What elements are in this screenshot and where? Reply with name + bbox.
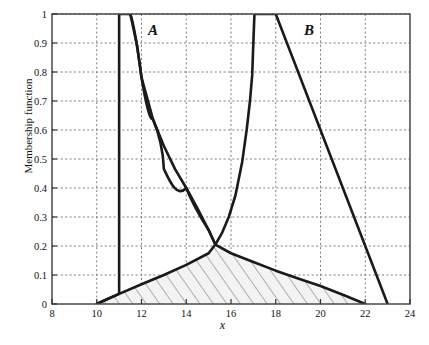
membership-function-chart: 1 0.9 0.8 0.7 0.6 0.5 0.4 0.3 0.2 0.1 0 …: [0, 0, 429, 345]
x-axis-label: x: [0, 318, 429, 333]
y-tick-label: 1: [42, 9, 47, 20]
y-tick-label: 0.6: [34, 125, 47, 136]
figure-caption: [2, 336, 427, 345]
y-axis-label-wrapper: Membership function: [0, 0, 1, 1]
curve-label-b: B: [304, 22, 314, 39]
x-axis-label-text: x: [220, 318, 225, 332]
y-tick-label: 0.5: [34, 154, 47, 165]
y-tick-label: 0.9: [34, 38, 47, 49]
y-tick-label: 0.2: [34, 241, 47, 252]
y-axis-label: Membership function: [22, 46, 34, 206]
y-tick-label: 0.7: [34, 96, 47, 107]
y-tick-label: 0.1: [34, 270, 47, 281]
y-tick-label: 0.8: [34, 67, 47, 78]
y-tick-label: 0.4: [34, 183, 48, 194]
y-tick-label: 0.3: [34, 212, 47, 223]
figure-container: 1 0.9 0.8 0.7 0.6 0.5 0.4 0.3 0.2 0.1 0 …: [0, 0, 429, 345]
y-tick-labels: 1 0.9 0.8 0.7 0.6 0.5 0.4 0.3 0.2 0.1 0: [34, 9, 48, 310]
y-tick-label: 0: [42, 299, 47, 310]
curve-label-a: A: [148, 22, 158, 39]
